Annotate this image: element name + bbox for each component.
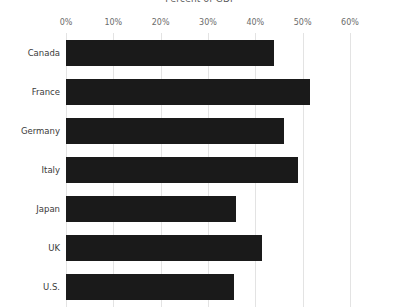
gridline	[350, 33, 351, 307]
y-axis-tick-label: Canada	[28, 48, 60, 58]
chart-title: Percent of GDP	[0, 0, 401, 4]
plot-area	[66, 33, 350, 307]
bar	[66, 157, 298, 183]
y-axis-tick-label: U.S.	[43, 282, 60, 292]
x-axis-tick-labels: 0%10%20%30%40%50%60%	[66, 18, 350, 30]
y-axis-category-labels: CanadaFranceGermanyItalyJapanUKU.S.	[0, 33, 60, 307]
y-axis-tick-label: Italy	[42, 165, 60, 175]
y-axis-tick-label: UK	[48, 243, 60, 253]
bar	[66, 40, 274, 66]
bar	[66, 118, 284, 144]
bar-chart: Percent of GDP 0%10%20%30%40%50%60% Cana…	[0, 0, 401, 307]
bar	[66, 79, 310, 105]
x-axis-tick-label: 60%	[341, 18, 359, 27]
y-axis-tick-label: Japan	[36, 204, 60, 214]
y-axis-tick-label: Germany	[21, 126, 60, 136]
x-axis-tick-label: 40%	[246, 18, 264, 27]
gridline	[303, 33, 304, 307]
x-axis-tick-label: 0%	[60, 18, 73, 27]
bar	[66, 274, 234, 300]
x-axis-tick-label: 20%	[152, 18, 170, 27]
y-axis-tick-label: France	[32, 87, 60, 97]
x-axis-tick-label: 30%	[199, 18, 217, 27]
bar	[66, 235, 262, 261]
bar	[66, 196, 236, 222]
x-axis-tick-label: 10%	[104, 18, 122, 27]
x-axis-tick-label: 50%	[294, 18, 312, 27]
